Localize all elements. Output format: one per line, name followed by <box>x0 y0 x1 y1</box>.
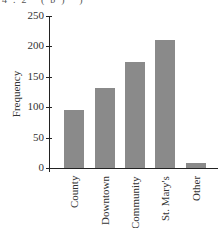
x-tick-label: Community <box>129 176 141 228</box>
y-tick-label: 100 <box>20 100 44 112</box>
bar-other <box>186 163 206 168</box>
x-tick-label: Other <box>190 176 202 201</box>
y-tick-mark <box>46 46 52 47</box>
y-tick-mark <box>46 77 52 78</box>
bar-downtown <box>95 88 115 168</box>
y-tick-label: 0 <box>20 161 44 173</box>
x-tick-label: Downtown <box>99 176 111 225</box>
y-tick-mark <box>46 138 52 139</box>
bar-county <box>64 110 84 168</box>
figure-label-fragment: 4.2 (b) ) <box>2 0 89 5</box>
x-axis-line <box>46 168 218 169</box>
y-tick-mark <box>46 168 52 169</box>
y-tick-label: 250 <box>20 9 44 21</box>
y-tick-label: 150 <box>20 70 44 82</box>
bar-community <box>125 62 145 168</box>
y-tick-mark <box>46 107 52 108</box>
y-axis-line <box>49 16 50 172</box>
y-tick-label: 200 <box>20 39 44 51</box>
x-tick-label: County <box>68 176 80 208</box>
bar-st-mary-s <box>155 40 175 168</box>
x-tick-label: St. Mary's <box>159 176 171 221</box>
y-tick-mark <box>46 16 52 17</box>
y-tick-label: 50 <box>20 131 44 143</box>
